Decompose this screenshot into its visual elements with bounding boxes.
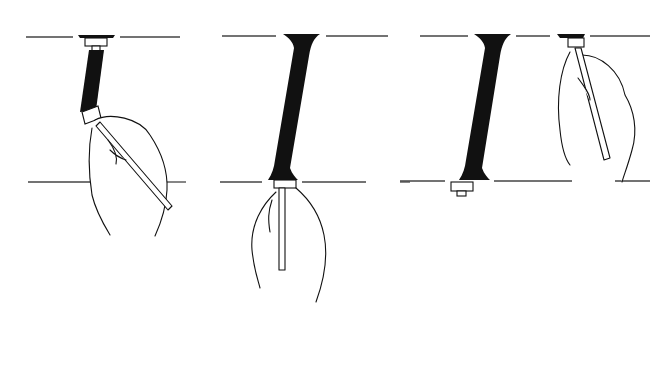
panel-stage-3 xyxy=(400,34,650,196)
panel-stage-1 xyxy=(26,35,186,236)
calligraphy-illustration xyxy=(0,0,672,373)
panel-stage-2 xyxy=(220,34,410,302)
illustration-canvas xyxy=(0,0,672,373)
